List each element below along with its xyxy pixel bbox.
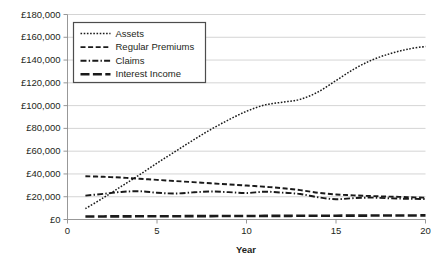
y-axis-tick-label: £0 xyxy=(50,214,61,225)
legend-label: Assets xyxy=(116,28,145,39)
legend-label: Regular Premiums xyxy=(116,41,195,52)
y-axis-tick-label: £140,000 xyxy=(21,54,61,65)
y-axis-tick-label: £180,000 xyxy=(21,9,61,20)
legend-label: Claims xyxy=(116,55,145,66)
y-axis-tick-label: £80,000 xyxy=(26,122,60,133)
legend-label: Interest Income xyxy=(116,68,181,79)
line-chart: £0£20,000£40,000£60,000£80,000£100,000£1… xyxy=(0,0,433,265)
x-axis-tick-label: 0 xyxy=(65,225,70,236)
y-axis-tick-labels: £0£20,000£40,000£60,000£80,000£100,000£1… xyxy=(21,9,61,225)
series-line xyxy=(85,176,425,197)
legend: AssetsRegular PremiumsClaimsInterest Inc… xyxy=(74,23,206,83)
x-axis-tick-label: 5 xyxy=(154,225,159,236)
x-axis-tick-label: 15 xyxy=(331,225,342,236)
y-axis-tick-label: £20,000 xyxy=(26,191,60,202)
x-axis-tick-label: 20 xyxy=(420,225,431,236)
series-line xyxy=(85,215,425,216)
x-axis-title: Year xyxy=(236,244,256,255)
y-axis-tick-label: £100,000 xyxy=(21,100,61,111)
y-axis-tick-label: £120,000 xyxy=(21,77,61,88)
y-axis-tick-label: £60,000 xyxy=(26,145,60,156)
y-axis-tick-label: £160,000 xyxy=(21,31,61,42)
y-axis-tick-label: £40,000 xyxy=(26,168,60,179)
chart-container: £0£20,000£40,000£60,000£80,000£100,000£1… xyxy=(0,0,433,265)
x-axis-tick-label: 10 xyxy=(241,225,252,236)
x-axis-tick-labels: 05101520 xyxy=(65,225,431,236)
